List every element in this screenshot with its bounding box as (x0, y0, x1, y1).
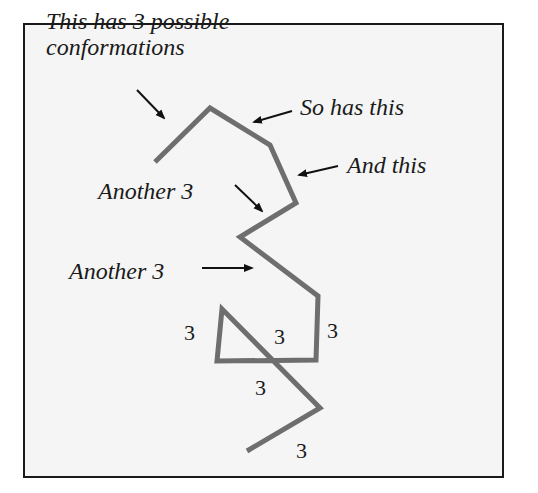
bond-label: 3 (274, 324, 285, 350)
arrow-icon (254, 111, 292, 122)
polymer-chain-diagram (0, 0, 538, 493)
arrow-icon (299, 166, 338, 175)
arrow-icon (137, 90, 164, 118)
annotation-title-line1: This has 3 possible (46, 8, 229, 34)
annotation-so-has-this: So has this (300, 94, 404, 120)
annotation-another-3-a: Another 3 (98, 178, 193, 204)
annotation-and-this: And this (347, 152, 426, 178)
bond-label: 3 (184, 320, 195, 346)
bond-label: 3 (296, 438, 307, 464)
arrow-icon (235, 185, 262, 211)
annotation-another-3-b: Another 3 (69, 258, 164, 284)
bond-label: 3 (255, 375, 266, 401)
bond-label: 3 (327, 318, 338, 344)
annotation-title-line2: conformations (46, 34, 185, 60)
polymer-chain (155, 108, 320, 451)
